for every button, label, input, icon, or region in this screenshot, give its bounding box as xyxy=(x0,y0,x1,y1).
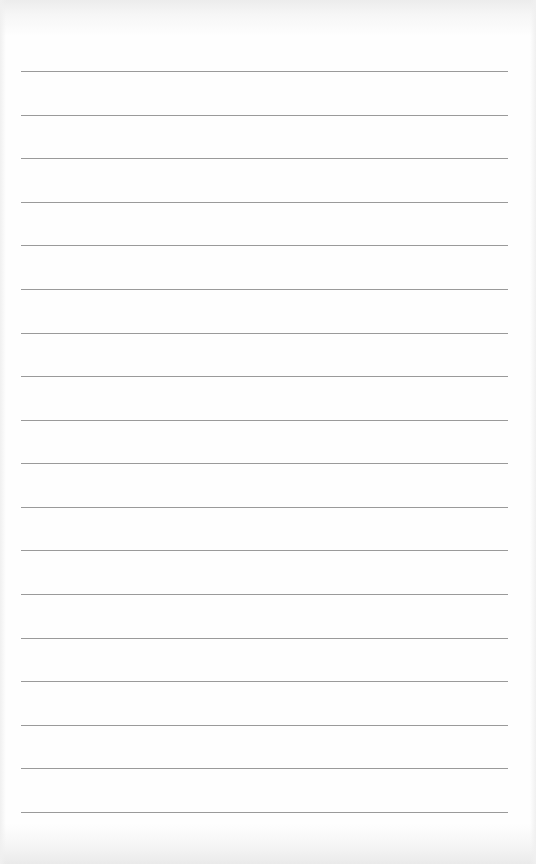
ruled-line xyxy=(21,812,508,813)
paper-bottom-edge xyxy=(0,824,536,864)
ruled-line xyxy=(21,638,508,639)
ruled-line xyxy=(21,725,508,726)
ruled-line xyxy=(21,550,508,551)
ruled-line xyxy=(21,376,508,377)
ruled-line xyxy=(21,158,508,159)
ruled-line xyxy=(21,594,508,595)
ruled-line xyxy=(21,333,508,334)
paper-right-edge xyxy=(530,0,536,864)
ruled-line xyxy=(21,507,508,508)
ruled-line xyxy=(21,115,508,116)
paper-left-edge xyxy=(0,0,6,864)
ruled-line xyxy=(21,71,508,72)
lined-paper-page xyxy=(0,0,536,864)
ruled-line xyxy=(21,245,508,246)
ruled-line xyxy=(21,202,508,203)
ruled-line xyxy=(21,420,508,421)
paper-top-edge xyxy=(0,0,536,36)
ruled-line xyxy=(21,289,508,290)
ruled-line xyxy=(21,768,508,769)
ruled-line xyxy=(21,681,508,682)
ruled-line xyxy=(21,463,508,464)
